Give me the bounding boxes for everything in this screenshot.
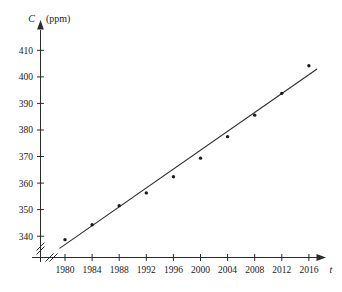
x-axis-title: t: [330, 264, 333, 275]
x-tick-label-1980: 1980: [56, 265, 75, 275]
y-axis-units: (ppm): [46, 13, 70, 25]
y-axis-title: C: [28, 13, 35, 24]
chart-canvas: 340 350 360 370 380 390 400 410 1980 198…: [0, 0, 342, 292]
x-tick-label-2012: 2012: [272, 265, 291, 275]
data-point: [307, 64, 310, 67]
y-tick-label-350: 350: [19, 205, 34, 215]
regression-line: [60, 69, 317, 248]
y-axis-arrow-icon: [37, 20, 44, 30]
y-tick-label-390: 390: [19, 99, 34, 109]
data-point: [280, 92, 283, 95]
y-tick-label-370: 370: [19, 152, 34, 162]
data-points-group: [63, 64, 310, 241]
x-tick-label-2016: 2016: [299, 265, 318, 275]
y-tick-label-340: 340: [19, 232, 34, 242]
y-tick-label-360: 360: [19, 179, 34, 189]
data-point: [199, 156, 202, 159]
y-tick-label-410: 410: [19, 46, 34, 56]
y-tick-label-380: 380: [19, 125, 34, 135]
co2-scatter-chart: 340 350 360 370 380 390 400 410 1980 198…: [0, 0, 342, 292]
data-point: [90, 223, 93, 226]
x-tick-label-1988: 1988: [110, 265, 129, 275]
data-point: [172, 175, 175, 178]
x-tick-label-2000: 2000: [191, 265, 210, 275]
x-tick-label-2004: 2004: [218, 265, 237, 275]
y-axis: [37, 20, 44, 262]
x-tick-label-2008: 2008: [245, 265, 264, 275]
x-tick-label-1984: 1984: [83, 265, 102, 275]
data-point: [118, 204, 121, 207]
y-tick-label-400: 400: [19, 72, 34, 82]
x-tick-label-1992: 1992: [137, 265, 156, 275]
data-point: [145, 191, 148, 194]
x-tick-label-1996: 1996: [164, 265, 183, 275]
x-axis-arrow-icon: [317, 254, 327, 261]
data-point: [226, 135, 229, 138]
data-point: [253, 113, 256, 116]
data-point: [63, 238, 66, 241]
